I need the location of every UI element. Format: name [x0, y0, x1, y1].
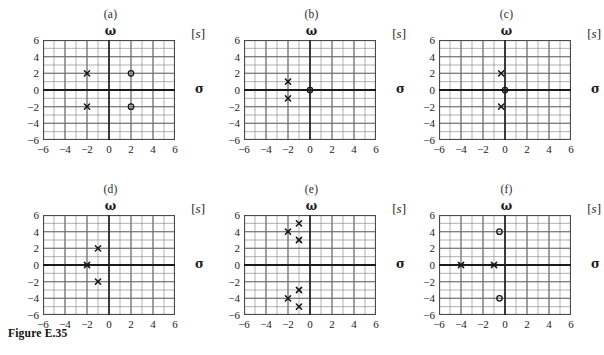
y-tick-label: −6	[423, 309, 435, 321]
imaginary-axis-label: ω	[10, 199, 211, 213]
s-plane-label: [s]	[191, 201, 205, 217]
y-tick-label: 6	[430, 34, 436, 46]
x-tick-label: 6	[172, 143, 178, 155]
x-tick-label: 2	[329, 318, 335, 330]
x-tick-label: 4	[546, 318, 552, 330]
panel-title: (b)	[211, 8, 412, 20]
s-plane-label: [s]	[587, 201, 601, 217]
panel-title: (c)	[406, 8, 604, 20]
y-tick-label: 4	[430, 226, 436, 238]
y-tick-label: −6	[228, 309, 240, 321]
s-plane-label: [s]	[587, 26, 601, 42]
x-tick-label: −4	[260, 318, 272, 330]
y-tick-label: −2	[423, 101, 435, 113]
y-tick-label: 2	[235, 67, 241, 79]
y-tick-label: −2	[423, 276, 435, 288]
figure-container: (a)ω[s]−6−4−202466420−2−4−6σ(b)ω[s]−6−4−…	[0, 0, 604, 355]
x-tick-label: −2	[477, 143, 489, 155]
y-tick-label: 0	[235, 259, 241, 271]
x-tick-label: 0	[502, 143, 508, 155]
x-tick-label: −4	[455, 318, 467, 330]
x-tick-label: 6	[373, 143, 379, 155]
pole-zero-panel-b: (b)ω[s]−6−4−202466420−2−4−6σ	[211, 2, 412, 179]
x-tick-label: 4	[150, 318, 156, 330]
y-tick-label: −4	[228, 292, 240, 304]
x-tick-label: 2	[524, 318, 530, 330]
s-plane-label: [s]	[392, 26, 406, 42]
panel-title: (a)	[10, 8, 211, 20]
y-tick-label: 4	[235, 226, 241, 238]
y-tick-label: −4	[27, 117, 39, 129]
y-tick-label: −4	[228, 117, 240, 129]
x-tick-label: 0	[106, 318, 112, 330]
x-tick-label: 6	[172, 318, 178, 330]
y-tick-label: 6	[235, 34, 241, 46]
plot-area: −6−4−202466420−2−4−6	[244, 40, 376, 140]
s-plane-label: [s]	[191, 26, 205, 42]
imaginary-axis-label: ω	[211, 199, 412, 213]
y-tick-label: 0	[235, 84, 241, 96]
y-tick-label: 2	[430, 67, 436, 79]
y-tick-label: 4	[430, 51, 436, 63]
plot-area: −6−4−202466420−2−4−6	[244, 215, 376, 315]
y-tick-label: 2	[430, 242, 436, 254]
y-tick-label: −6	[228, 134, 240, 146]
real-axis-label: σ	[195, 82, 204, 96]
y-tick-label: −2	[27, 276, 39, 288]
imaginary-axis-label: ω	[211, 24, 412, 38]
figure-caption: Figure E.35	[8, 327, 68, 339]
x-tick-label: −4	[455, 143, 467, 155]
real-axis-label: σ	[396, 257, 405, 271]
y-tick-label: 0	[430, 84, 436, 96]
y-tick-label: −4	[423, 292, 435, 304]
y-tick-label: 4	[34, 226, 40, 238]
x-tick-label: 6	[568, 143, 574, 155]
x-tick-label: 6	[373, 318, 379, 330]
y-tick-label: 4	[235, 51, 241, 63]
pole-zero-panel-e: (e)ω[s]−6−4−202466420−2−4−6σ	[211, 177, 412, 354]
y-tick-label: 6	[34, 209, 40, 221]
x-tick-label: −2	[282, 143, 294, 155]
y-tick-label: 0	[34, 84, 40, 96]
y-tick-label: −2	[228, 101, 240, 113]
y-tick-label: −6	[27, 134, 39, 146]
pole-zero-panel-f: (f)ω[s]−6−4−202466420−2−4−6σ	[406, 177, 604, 354]
x-tick-label: 0	[502, 318, 508, 330]
y-tick-label: 0	[430, 259, 436, 271]
x-tick-label: −2	[282, 318, 294, 330]
x-tick-label: 4	[351, 143, 357, 155]
y-tick-label: 2	[235, 242, 241, 254]
plot-area: −6−4−202466420−2−4−6	[43, 40, 175, 140]
y-tick-label: −4	[423, 117, 435, 129]
plot-area: −6−4−202466420−2−4−6	[439, 215, 571, 315]
y-tick-label: 6	[430, 209, 436, 221]
x-tick-label: 0	[106, 143, 112, 155]
real-axis-label: σ	[195, 257, 204, 271]
y-tick-label: −4	[27, 292, 39, 304]
plot-area: −6−4−202466420−2−4−6	[43, 215, 175, 315]
y-tick-label: −6	[423, 134, 435, 146]
imaginary-axis-label: ω	[10, 24, 211, 38]
y-tick-label: 0	[34, 259, 40, 271]
y-tick-label: 6	[34, 34, 40, 46]
y-tick-label: 6	[235, 209, 241, 221]
y-tick-label: 4	[34, 51, 40, 63]
real-axis-label: σ	[591, 82, 600, 96]
y-tick-label: 2	[34, 67, 40, 79]
x-tick-label: 4	[351, 318, 357, 330]
imaginary-axis-label: ω	[406, 24, 604, 38]
pole-zero-panel-a: (a)ω[s]−6−4−202466420−2−4−6σ	[10, 2, 211, 179]
x-tick-label: −4	[59, 143, 71, 155]
x-tick-label: 2	[128, 318, 134, 330]
real-axis-label: σ	[396, 82, 405, 96]
y-tick-label: −6	[27, 309, 39, 321]
imaginary-axis-label: ω	[406, 199, 604, 213]
y-tick-label: −2	[27, 101, 39, 113]
x-tick-label: −2	[477, 318, 489, 330]
x-tick-label: 4	[546, 143, 552, 155]
panel-title: (f)	[406, 183, 604, 195]
x-tick-label: 0	[307, 143, 313, 155]
s-plane-label: [s]	[392, 201, 406, 217]
plot-area: −6−4−202466420−2−4−6	[439, 40, 571, 140]
x-tick-label: 0	[307, 318, 313, 330]
